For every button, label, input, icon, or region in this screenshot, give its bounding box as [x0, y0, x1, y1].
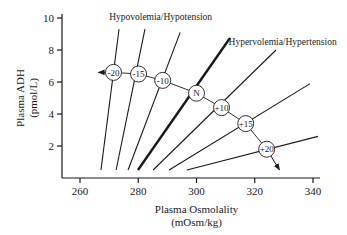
marker-label: N — [193, 88, 200, 98]
y-tick-label: 2 — [49, 140, 55, 152]
x-axis-title: (mOsm/kg) — [171, 216, 222, 229]
marker--20: -20 — [105, 64, 121, 80]
y-axis-title: Plasma ADH(pmol/L) — [14, 69, 40, 127]
x-tick-label: 300 — [188, 185, 205, 197]
line--10 — [128, 32, 180, 170]
annotation-hypovolemia: Hypovolemia/Hypotension — [109, 12, 212, 22]
marker-+20: +20 — [259, 141, 275, 157]
line--15 — [116, 29, 145, 170]
marker-+10: +10 — [214, 100, 230, 116]
line-+20 — [187, 136, 318, 170]
y-axis-title-line: Plasma ADH — [14, 69, 26, 127]
y-tick-label: 4 — [49, 108, 55, 120]
x-tick-label: 260 — [72, 185, 89, 197]
marker-label: -10 — [157, 76, 169, 86]
y-axis-title-line: (pmol/L) — [27, 78, 40, 118]
x-tick-label: 280 — [130, 185, 147, 197]
marker-label: +15 — [239, 119, 254, 129]
y-tick-label: 6 — [49, 76, 55, 88]
osmolality-adh-lines — [101, 29, 318, 170]
x-axis-title: Plasma Osmolality — [155, 203, 239, 215]
volume-change-markers: -20-15-10N+10+15+20 — [105, 64, 274, 157]
marker-normal: N — [189, 85, 205, 101]
line--20 — [101, 29, 119, 170]
annotation-hypervolemia: Hypervolemia/Hypertension — [229, 37, 337, 47]
marker-label: +20 — [260, 144, 275, 154]
marker-label: -15 — [133, 69, 145, 79]
y-tick-label: 10 — [43, 12, 55, 24]
marker--10: -10 — [155, 72, 171, 88]
x-tick-label: 340 — [305, 185, 322, 197]
marker-+15: +15 — [238, 116, 254, 132]
y-tick-label: 8 — [49, 44, 55, 56]
chart-canvas: 246810260280300320340 -20-15-10N+10+15+2… — [0, 0, 347, 235]
marker-label: -20 — [107, 68, 119, 78]
marker--15: -15 — [131, 66, 147, 82]
marker-path — [113, 72, 266, 149]
marker-label: +10 — [215, 103, 230, 113]
x-tick-label: 320 — [247, 185, 264, 197]
annotations: Hypovolemia/HypotensionHypervolemia/Hype… — [109, 12, 337, 48]
adh-osmolality-chart: 246810260280300320340 -20-15-10N+10+15+2… — [0, 0, 347, 235]
